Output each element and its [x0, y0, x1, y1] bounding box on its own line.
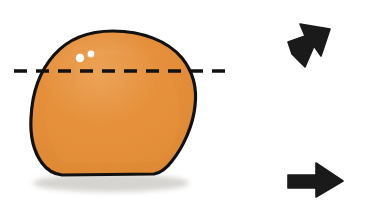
- scene-illustration: [0, 0, 371, 201]
- illustration-canvas: Hand-drawn orange fruit bisected by a da…: [0, 0, 371, 201]
- arrow-right-icon: [288, 163, 343, 197]
- arrow-up-right-icon: [288, 24, 330, 67]
- ground-shadow: [33, 174, 189, 192]
- highlight-dot-small: [88, 51, 95, 58]
- orange-fruit: [31, 31, 196, 175]
- highlight-dot-large: [76, 54, 84, 62]
